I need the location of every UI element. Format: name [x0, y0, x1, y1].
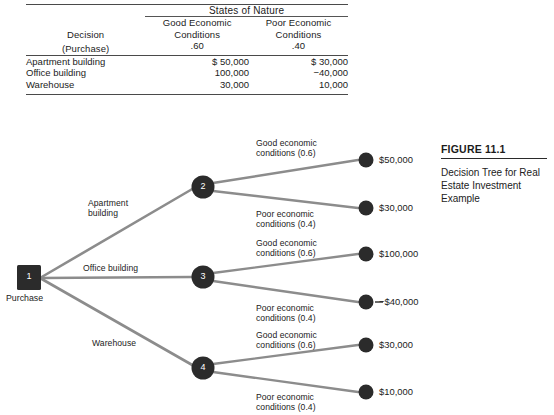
figure-caption: FIGURE 11.1 Decision Tree for Real Estat…: [441, 143, 547, 205]
chance-node-4-number: 4: [191, 362, 215, 372]
branch-poor-economic-1[interactable]: [213, 191, 358, 208]
terminal-node-2: [359, 201, 374, 216]
payoff-value-1: $50,000: [379, 154, 413, 165]
outcome-label-poor-2: Poor economic conditions (0.4): [256, 303, 316, 324]
branch-office-building[interactable]: [40, 277, 192, 278]
branch-poor-economic-2[interactable]: [213, 281, 358, 302]
terminal-node-1: [359, 153, 374, 168]
decision-tree-svg: [0, 0, 554, 415]
branch-label-apartment-building: Apartment building: [88, 198, 128, 219]
payoff-value-6: $10,000: [379, 386, 413, 397]
branch-poor-economic-3[interactable]: [213, 372, 358, 392]
outcome-label-good-3: Good economic conditions (0.6): [256, 330, 317, 351]
payoff-value-3: $100,000: [379, 248, 418, 259]
figure-description: Decision Tree for Real Estate Investment…: [441, 166, 547, 205]
outcome-label-poor-3: Poor economic conditions (0.4): [256, 392, 316, 413]
decision-tree-diagram: 1 2 3 4 Purchase Apartment building Offi…: [0, 0, 554, 415]
outcome-label-good-2: Good economic conditions (0.6): [256, 238, 317, 259]
payoff-value-4: −$40,000: [379, 296, 418, 307]
chance-node-3-number: 3: [191, 271, 215, 281]
branch-label-office-building: Office building: [83, 263, 138, 273]
outcome-label-good-1: Good economic conditions (0.6): [256, 138, 317, 159]
terminal-node-6: [359, 385, 374, 400]
root-node-label: Purchase: [6, 293, 43, 303]
terminal-node-4: [359, 295, 374, 310]
branch-label-warehouse: Warehouse: [92, 338, 136, 348]
branch-good-economic-1[interactable]: [213, 160, 358, 183]
payoff-value-5: $30,000: [379, 339, 413, 350]
terminal-node-5: [359, 338, 374, 353]
decision-node-1-number: 1: [17, 271, 41, 281]
outcome-label-poor-1: Poor economic conditions (0.4): [256, 209, 316, 230]
branch-warehouse[interactable]: [40, 278, 194, 366]
payoff-value-2: $30,000: [379, 202, 413, 213]
terminal-node-3: [359, 247, 374, 262]
chance-node-2-number: 2: [191, 181, 215, 191]
figure-number: FIGURE 11.1: [441, 143, 547, 159]
